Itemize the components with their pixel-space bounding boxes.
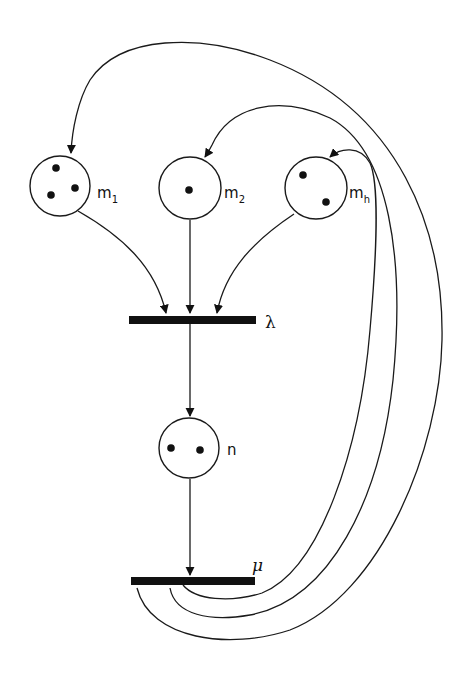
token (71, 184, 79, 192)
transition-label-lambda: λ (265, 312, 276, 332)
place-label-m2: m2 (224, 184, 245, 205)
token (185, 186, 193, 194)
place-n: n (159, 418, 237, 478)
arc-m1-to-lambda (78, 211, 166, 313)
arc-mh-to-lambda (217, 214, 294, 313)
arc-mu-to-mh (183, 150, 376, 599)
transition-label-mu: μ (252, 555, 263, 575)
arc-mu-to-m1 (71, 42, 442, 639)
transition-lambda: λ (129, 312, 276, 332)
token (47, 191, 55, 199)
place-m2: m2 (159, 157, 245, 219)
token (196, 446, 204, 454)
place-label-mh: mh (349, 184, 370, 205)
token (52, 164, 60, 172)
token (322, 198, 330, 206)
place-mh: mh (285, 157, 370, 219)
transition-mu: μ (131, 555, 263, 585)
place-label-n: n (227, 441, 237, 459)
place-m1: m1 (30, 156, 118, 216)
token (167, 444, 175, 452)
token (299, 171, 307, 179)
petri-net-diagram: m1 m2 mh n λ μ (0, 0, 461, 675)
place-label-m1: m1 (97, 184, 118, 205)
